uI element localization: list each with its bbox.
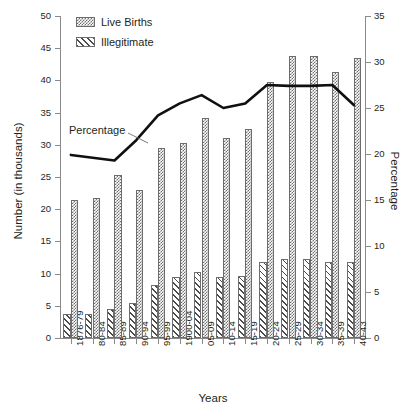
y-axis-right-tick-label: 0	[374, 333, 398, 343]
bar-live-births	[114, 175, 121, 338]
bar-live-births	[202, 118, 209, 338]
x-axis-tick	[136, 339, 137, 344]
y-axis-left-tick-label: 25	[27, 172, 51, 182]
y-axis-right-tick	[366, 16, 371, 17]
x-axis-tick	[311, 339, 312, 344]
x-axis-tick	[202, 339, 203, 344]
bar-live-births	[310, 56, 317, 338]
y-axis-left-tick-label: 10	[27, 269, 51, 279]
bar-live-births	[136, 190, 143, 338]
x-axis-tick	[158, 339, 159, 344]
y-axis-left-tick-label: 5	[27, 301, 51, 311]
bar-live-births	[245, 129, 252, 338]
y-axis-left-tick-label: 40	[27, 75, 51, 85]
bar-illegitimate	[216, 277, 223, 338]
bar-illegitimate	[107, 309, 114, 338]
bar-illegitimate	[238, 276, 245, 338]
x-axis-tick	[245, 339, 246, 344]
y-axis-right-tick	[366, 246, 371, 247]
chart-container: 05101520253035404550051015202530351876-7…	[0, 0, 409, 413]
x-axis-title: Years	[60, 392, 366, 404]
legend-label-illegitimate: Illegitimate	[101, 36, 154, 48]
bar-illegitimate	[129, 303, 136, 338]
y-axis-left-tick-label: 45	[27, 43, 51, 53]
y-axis-right-tick-label: 5	[374, 287, 398, 297]
x-axis-tick	[267, 339, 268, 344]
bar-illegitimate	[303, 259, 310, 338]
y-axis-left-tick-label: 15	[27, 236, 51, 246]
bar-live-births	[93, 198, 100, 338]
chart-legend: Live Births Illegitimate	[76, 14, 154, 54]
bar-live-births	[289, 56, 296, 338]
x-axis-tick	[289, 339, 290, 344]
bar-live-births	[158, 148, 165, 338]
bar-illegitimate	[194, 272, 201, 338]
y-axis-right-tick-label: 35	[374, 11, 398, 21]
bar-live-births	[180, 143, 187, 338]
legend-swatch-illegitimate-icon	[76, 37, 95, 47]
bar-illegitimate	[259, 262, 266, 338]
bars-layer	[60, 16, 365, 338]
bar-live-births	[267, 82, 274, 338]
bar-illegitimate	[151, 285, 158, 338]
legend-item-live-births: Live Births	[76, 14, 154, 30]
y-axis-right-tick	[366, 154, 371, 155]
y-axis-right-tick	[366, 292, 371, 293]
y-axis-left-tick-label: 0	[27, 333, 51, 343]
y-axis-left-tick-label: 20	[27, 204, 51, 214]
y-axis-left-tick-label: 50	[27, 11, 51, 21]
y-axis-right-title: Percentage	[389, 111, 401, 251]
y-axis-right-tick-label: 30	[374, 57, 398, 67]
y-axis-left-tick-label: 35	[27, 108, 51, 118]
bar-live-births	[354, 58, 361, 338]
y-axis-right-tick	[366, 62, 371, 63]
x-axis-tick	[180, 339, 181, 344]
bar-live-births	[71, 200, 78, 338]
y-axis-right-tick	[366, 108, 371, 109]
y-axis-right-tick	[366, 200, 371, 201]
x-axis-tick	[223, 339, 224, 344]
y-axis-left-tick-label: 30	[27, 140, 51, 150]
x-axis-tick	[71, 339, 72, 344]
bar-illegitimate	[63, 314, 70, 338]
x-axis-tick	[354, 339, 355, 344]
bar-live-births	[223, 138, 230, 338]
bar-illegitimate	[172, 277, 179, 338]
x-axis-tick	[114, 339, 115, 344]
x-axis-tick	[332, 339, 333, 344]
bar-illegitimate	[347, 262, 354, 338]
legend-label-live-births: Live Births	[101, 16, 152, 28]
bar-live-births	[332, 72, 339, 338]
bar-illegitimate	[325, 262, 332, 338]
bar-illegitimate	[281, 259, 288, 338]
y-axis-left-title: Number (in thousands)	[12, 111, 24, 251]
y-axis-right-line	[365, 16, 366, 339]
legend-swatch-live-births-icon	[76, 17, 95, 27]
y-axis-left-tick	[55, 338, 60, 339]
x-axis-tick	[93, 339, 94, 344]
bar-illegitimate	[85, 314, 92, 338]
legend-item-illegitimate: Illegitimate	[76, 34, 154, 50]
percentage-annotation-label: Percentage	[69, 124, 125, 136]
